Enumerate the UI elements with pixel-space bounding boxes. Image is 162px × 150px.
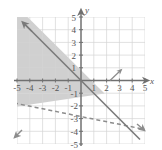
x-tick-label: -4	[26, 83, 34, 93]
y-tick-label: -4	[71, 127, 79, 137]
x-tick-label: 3	[117, 83, 122, 93]
y-tick-label: 3	[72, 38, 77, 48]
x-tick-label: 4	[130, 83, 135, 93]
x-tick-label: -2	[52, 83, 60, 93]
x-tick-label: 2	[104, 83, 109, 93]
y-tick-label: -5	[71, 140, 79, 150]
y-tick-label: -3	[71, 114, 79, 124]
y-tick-label: 4	[72, 25, 77, 35]
graph-figure: -5 -4 -3 -2 -1 1 2 3 4 5 5 4 3 2 1 -1 -2…	[0, 0, 162, 149]
x-tick-label: -3	[39, 83, 47, 93]
x-tick-label: 5	[143, 83, 148, 93]
y-tick-label: -2	[71, 101, 79, 111]
y-tick-label: 5	[72, 13, 77, 23]
x-tick-label: 1	[92, 83, 97, 93]
y-tick-label: 2	[72, 51, 77, 61]
x-axis-label: x	[149, 76, 154, 86]
y-axis-label: y	[84, 5, 89, 15]
y-tick-label: -1	[71, 89, 79, 99]
y-tick-label: 1	[72, 63, 77, 73]
x-tick-label: -5	[13, 83, 21, 93]
coordinate-plane: -5 -4 -3 -2 -1 1 2 3 4 5 5 4 3 2 1 -1 -2…	[0, 0, 162, 149]
